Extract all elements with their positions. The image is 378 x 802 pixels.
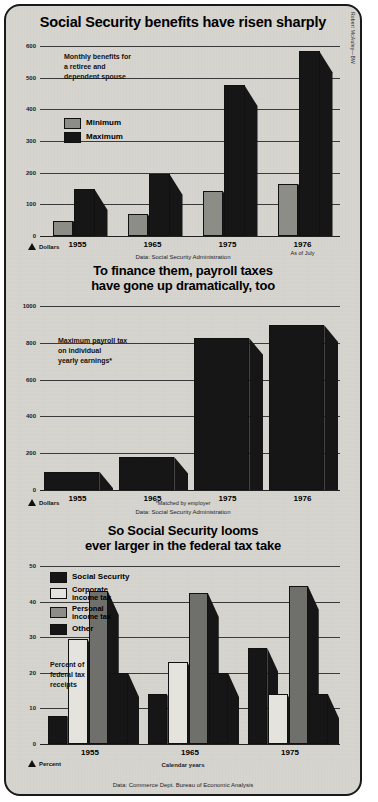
legend-item-other: Other <box>50 624 129 635</box>
legend-swatch-social-security <box>50 572 67 583</box>
legend-item-minimum: Minimum <box>64 118 123 129</box>
bar-1975-corporate-income-tax <box>268 694 287 744</box>
bar-side-shadow <box>170 174 183 236</box>
bar-1975-other <box>309 694 328 744</box>
y-tick-1000: 1000 <box>23 303 36 309</box>
x-label-1975: 1975 <box>240 748 340 757</box>
bar-1965-social-security <box>148 694 167 744</box>
y-tick-800: 800 <box>26 340 36 346</box>
bar-1975-personal-income-tax <box>289 586 308 744</box>
bar-1976-maximum-payroll-tax-on-individual-yearly-earnings <box>269 325 325 490</box>
gridline-200 <box>40 173 340 174</box>
legend-swatch-minimum <box>64 118 81 129</box>
bar-side-shadow <box>249 338 263 490</box>
bar-side-shadow <box>95 189 108 236</box>
bar-1955-corporate-income-tax <box>68 639 87 744</box>
bar-face <box>44 472 100 490</box>
legend-swatch-other <box>50 624 67 635</box>
chart-taxtake-plot-area: 01020304050195519651975 Social Security … <box>6 560 360 794</box>
bar-1955-minimum <box>53 221 74 236</box>
y-tick-400: 400 <box>26 413 36 419</box>
infographic-page: Robert McAuley—BW Social Security benefi… <box>0 0 378 802</box>
bar-1965-minimum <box>128 214 149 236</box>
legend-label-corporate-income-tax: Corporate income tax <box>72 586 111 602</box>
triangle-icon <box>28 243 36 250</box>
bar-face <box>248 648 267 744</box>
chart-taxtake-legend: Social Security Corporate income tax Per… <box>50 572 129 638</box>
bar-face <box>148 694 167 744</box>
legend-swatch-corporate-income-tax <box>50 588 67 599</box>
y-tick-10: 10 <box>29 705 36 711</box>
y-tick-200: 200 <box>26 450 36 456</box>
bar-face <box>48 716 67 744</box>
bar-1965-personal-income-tax <box>189 593 208 744</box>
legend-label-personal-income-tax: Personal income tax <box>72 605 111 621</box>
chart-taxtake-title: So Social Security looms ever larger in … <box>6 524 360 553</box>
x-label-1976: 1976 <box>265 240 340 249</box>
y-tick-200: 200 <box>26 170 36 176</box>
bar-face <box>74 189 95 236</box>
chart-payroll-source: Data: Social Security Administration <box>6 509 360 515</box>
bar-face <box>128 214 149 236</box>
y-tick-40: 40 <box>29 599 36 605</box>
bar-side-shadow <box>99 472 113 490</box>
x-label-1975: 1975 <box>190 240 265 249</box>
bar-face <box>168 662 187 744</box>
y-tick-600: 600 <box>26 377 36 383</box>
chart-benefits-legend: Minimum Maximum <box>64 118 123 146</box>
bar-face <box>119 457 175 490</box>
chart-benefits-plot-area: 01002003004005006001955196519751976As of… <box>6 38 360 262</box>
legend-item-maximum: Maximum <box>64 132 123 143</box>
chart-benefits: Social Security benefits have risen shar… <box>6 14 360 262</box>
bar-face <box>289 586 308 744</box>
chart-payroll-title: To finance them, payroll taxes have gone… <box>6 264 360 293</box>
bar-1955-social-security <box>48 716 67 744</box>
bar-1965-corporate-income-tax <box>168 662 187 744</box>
bar-1965-maximum-payroll-tax-on-individual-yearly-earnings <box>119 457 175 490</box>
legend-item-corporate-income-tax: Corporate income tax <box>50 586 129 602</box>
y-tick-0: 0 <box>33 741 36 747</box>
chart-taxtake-source: Data: Commerce Dept. Bureau of Economic … <box>6 782 360 788</box>
y-tick-400: 400 <box>26 106 36 112</box>
bar-side-shadow <box>245 85 258 236</box>
chart-benefits-unit-label: Dollars <box>39 244 59 250</box>
y-tick-0: 0 <box>33 233 36 239</box>
bar-1975-social-security <box>248 648 267 744</box>
chart-taxtake: So Social Security looms ever larger in … <box>6 524 360 794</box>
y-tick-100: 100 <box>26 201 36 207</box>
legend-label-other: Other <box>72 625 93 633</box>
x-label-1965: 1965 <box>115 240 190 249</box>
bar-face <box>109 673 128 744</box>
bar-1975-maximum-payroll-tax-on-individual-yearly-earnings <box>194 338 250 490</box>
bar-face <box>53 221 74 236</box>
bar-1976-maximum <box>299 51 320 236</box>
y-tick-0: 0 <box>33 487 36 493</box>
chart-payroll-plot-area: 020040060080010001955196519751976 Maximu… <box>6 300 360 518</box>
bar-face <box>268 694 287 744</box>
chart-plate: Robert McAuley—BW Social Security benefi… <box>4 4 362 796</box>
chart-benefits-annotation: Monthly benefits for a retiree and depen… <box>64 52 131 82</box>
bar-face <box>269 325 325 490</box>
bar-1955-other <box>109 673 128 744</box>
bar-1955-maximum <box>74 189 95 236</box>
y-tick-300: 300 <box>26 138 36 144</box>
bar-face <box>299 51 320 236</box>
gridline-50 <box>40 566 340 567</box>
legend-swatch-maximum <box>64 132 81 143</box>
bar-face <box>149 174 170 236</box>
bar-face <box>203 191 224 236</box>
chart-benefits-source: Data: Social Security Administration <box>6 254 360 260</box>
bar-1975-maximum <box>224 85 245 236</box>
bar-face <box>278 184 299 236</box>
chart-benefits-title: Social Security benefits have risen shar… <box>6 14 360 30</box>
x-axis-line <box>40 744 340 745</box>
bar-face <box>224 85 245 236</box>
chart-payroll-footnote: *Matched by employer <box>6 500 360 506</box>
bar-1965-maximum <box>149 174 170 236</box>
chart-payroll-plot: 020040060080010001955196519751976 <box>40 306 340 490</box>
x-label-1955: 1955 <box>40 748 140 757</box>
y-tick-50: 50 <box>29 563 36 569</box>
bar-side-shadow <box>320 51 333 236</box>
y-tick-600: 600 <box>26 43 36 49</box>
bar-face <box>189 593 208 744</box>
